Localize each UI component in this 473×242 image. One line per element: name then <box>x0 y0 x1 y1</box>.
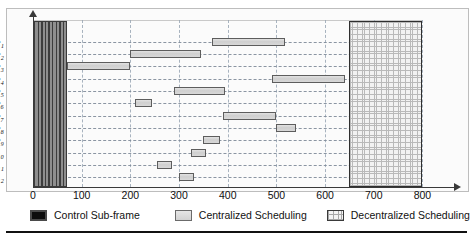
x-axis-tick-label-100: 100 <box>73 189 91 201</box>
control-subframe-block <box>33 21 67 187</box>
x-axis-line <box>33 187 456 188</box>
task-bar-e5 <box>174 87 225 95</box>
scheduling-gantt-figure: 0100200300400500600700800e₁e₂e₃e₄e₅e₆e₇e… <box>0 0 473 242</box>
y-axis-arrow-icon <box>29 10 37 17</box>
chart-legend: Control Sub-frame Centralized Scheduling… <box>6 205 467 225</box>
legend-item-decentralized-scheduling: Decentralized Scheduling <box>327 209 470 221</box>
y-axis-tick-label-e12: e₁₂ <box>0 172 4 183</box>
task-bar-e6 <box>135 99 152 107</box>
legend-item-centralized-scheduling: Centralized Scheduling <box>175 209 307 221</box>
x-axis-tick-label-300: 300 <box>170 189 188 201</box>
task-bar-e12 <box>179 173 194 181</box>
task-bar-e1 <box>212 38 285 46</box>
legend-item-control-subframe: Control Sub-frame <box>30 209 140 221</box>
bottom-rule-divider <box>6 231 467 233</box>
x-axis-arrow-icon <box>454 183 461 191</box>
y-axis-tick-label-e2: e₂ <box>0 48 4 59</box>
x-gridline-800 <box>422 20 423 187</box>
y-axis-tick-label-e8: e₈ <box>0 122 4 133</box>
y-axis-tick-label-e7: e₇ <box>0 110 4 121</box>
legend-label-centralized-scheduling: Centralized Scheduling <box>199 209 307 221</box>
y-axis-tick-label-e10: e₁₀ <box>0 147 4 158</box>
x-axis-tick-label-200: 200 <box>122 189 140 201</box>
task-bar-e11 <box>157 161 172 169</box>
task-bar-e10 <box>191 149 206 157</box>
decentralized-scheduling-swatch <box>327 210 344 221</box>
y-axis-tick-label-e5: e₅ <box>0 85 4 96</box>
y-axis-tick-label-e11: e₁₁ <box>0 160 4 171</box>
task-bar-e4 <box>272 75 345 83</box>
y-axis-tick-label-e3: e₃ <box>0 61 4 72</box>
task-bar-e8 <box>276 124 295 132</box>
x-axis-tick-label-500: 500 <box>268 189 286 201</box>
y-axis-line <box>33 14 34 188</box>
x-axis-tick-label-0: 0 <box>30 189 36 201</box>
y-axis-tick-label-e9: e₉ <box>0 135 4 146</box>
control-subframe-swatch <box>30 210 47 221</box>
task-bar-e2 <box>130 50 201 58</box>
legend-label-control-subframe: Control Sub-frame <box>54 209 140 221</box>
task-bar-e7 <box>223 112 277 120</box>
task-bar-e3 <box>67 62 130 70</box>
y-axis-tick-label-e4: e₄ <box>0 73 4 84</box>
centralized-scheduling-swatch <box>175 210 192 221</box>
x-axis-tick-label-400: 400 <box>219 189 237 201</box>
task-bar-e9 <box>203 136 220 144</box>
x-axis-tick-label-700: 700 <box>365 189 383 201</box>
x-axis-tick-label-800: 800 <box>414 189 432 201</box>
decentralized-scheduling-block <box>349 21 422 187</box>
y-axis-tick-label-e1: e₁ <box>0 36 4 47</box>
x-axis-tick-label-600: 600 <box>316 189 334 201</box>
y-axis-tick-label-e6: e₆ <box>0 98 4 109</box>
legend-label-decentralized-scheduling: Decentralized Scheduling <box>351 209 470 221</box>
